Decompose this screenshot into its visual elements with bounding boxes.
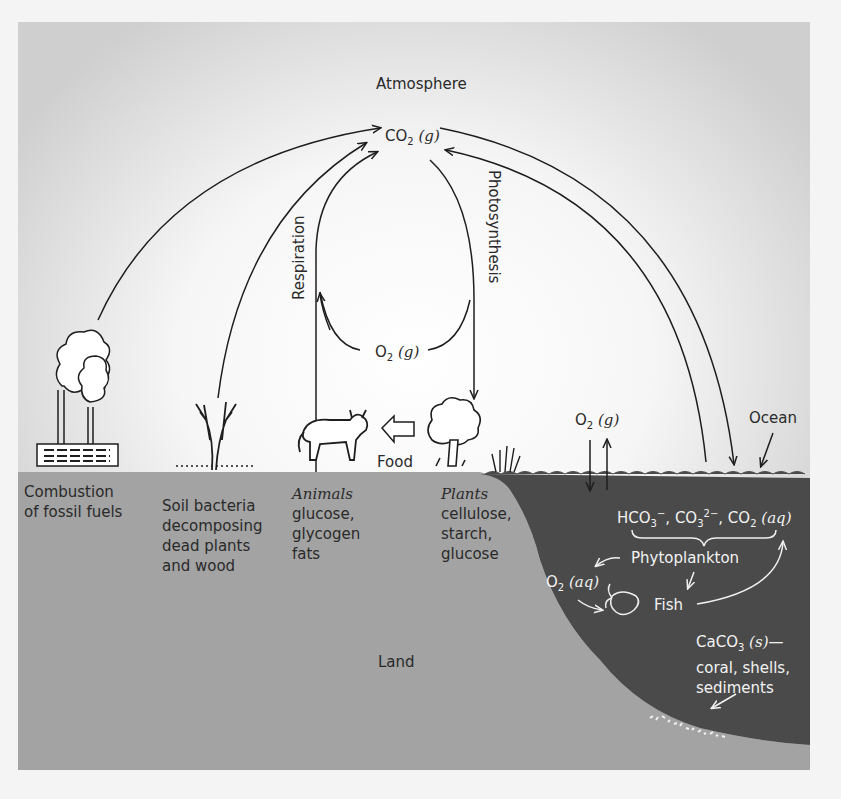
phytoplankton-label: Phytoplankton [631, 548, 739, 568]
carbon-cycle-diagram: Atmosphere CO2 (g) Respiration Photosynt… [0, 0, 841, 799]
o2-gas-ocean-label: O2 (g) [575, 410, 619, 436]
fossil-fuels-label: Combustion of fossil fuels [24, 482, 122, 522]
land-label: Land [378, 652, 415, 672]
o2-aq-label: O2 (aq) [546, 572, 599, 598]
co2-gas-label: CO2 (g) [385, 126, 440, 152]
arrow-fossil-to-co2 [98, 128, 380, 320]
animals-label: Animals glucose, glycogen fats [292, 484, 360, 564]
atmosphere-label: Atmosphere [376, 74, 467, 94]
ocean-carbon-species-label: HCO3−, CO32−, CO2 (aq) [617, 504, 792, 534]
photosynthesis-label: Photosynthesis [485, 170, 503, 283]
caco3-label: CaCO3 (s)— coral, shells, sediments [696, 632, 790, 698]
o2-gas-center-label: O2 (g) [375, 342, 419, 368]
food-label: Food [377, 452, 413, 472]
ocean-surface-waves [485, 472, 805, 475]
tree-icon [428, 398, 480, 466]
food-arrow-icon [382, 416, 414, 442]
fish-label: Fish [654, 595, 683, 615]
soil-bacteria-label: Soil bacteria decomposing dead plants an… [162, 496, 263, 576]
arrow-ocean-label [761, 433, 773, 466]
dead-tree-icon [176, 402, 256, 470]
respiration-label: Respiration [290, 215, 308, 300]
factory-icon [37, 330, 118, 466]
plants-label: Plants cellulose, starch, glucose [441, 484, 511, 564]
grass-icon [492, 446, 520, 472]
arrow-photosynthesis [430, 160, 474, 398]
cow-icon [299, 410, 368, 460]
ocean-label: Ocean [749, 408, 797, 428]
